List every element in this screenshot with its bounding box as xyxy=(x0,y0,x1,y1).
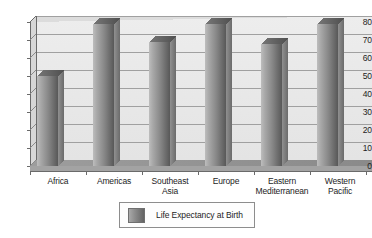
x-tick-western-pacific-line2: Pacific xyxy=(312,186,368,196)
x-tick-africa-line1: Africa xyxy=(30,176,86,186)
x-tick-africa: Africa xyxy=(30,176,86,186)
legend-swatch-life-expectancy xyxy=(128,208,145,223)
bar-americas xyxy=(93,18,120,166)
bar-europe xyxy=(205,18,232,166)
y-tick-30: 30 xyxy=(352,108,372,117)
y-tick-20: 20 xyxy=(352,126,372,135)
x-tick-eastern-mediterranean-line2: Mediterranean xyxy=(250,186,314,196)
x-tick-western-pacific: Western Pacific xyxy=(312,176,368,196)
bar-front-face xyxy=(149,42,170,166)
chart-legend: Life Expectancy at Birth xyxy=(119,202,255,228)
bar-side-face xyxy=(114,18,120,166)
y-tick-70: 70 xyxy=(352,36,372,45)
x-tick-americas: Americas xyxy=(86,176,142,186)
bar-front-face xyxy=(261,44,282,166)
y-tick-0: 0 xyxy=(352,162,372,171)
bar-front-face xyxy=(205,24,226,166)
x-tick-americas-line1: Americas xyxy=(86,176,142,186)
x-tick-southeast-asia-line1: Southeast xyxy=(142,176,198,186)
y-tick-40: 40 xyxy=(352,90,372,99)
y-tick-60: 60 xyxy=(352,54,372,63)
x-tick-southeast-asia: Southeast Asia xyxy=(142,176,198,196)
life-expectancy-bar-chart: 80 70 60 50 40 30 20 10 0 Africa America… xyxy=(0,0,372,238)
bar-side-face xyxy=(58,70,64,166)
plot-area xyxy=(0,0,372,180)
x-tick-europe-line1: Europe xyxy=(198,176,254,186)
legend-label-life-expectancy: Life Expectancy at Birth xyxy=(156,210,243,220)
bar-western-pacific xyxy=(317,18,344,166)
bar-southeast-asia xyxy=(149,36,176,166)
y-tick-80: 80 xyxy=(352,18,372,27)
x-tick-western-pacific-line1: Western xyxy=(312,176,368,186)
x-tick-southeast-asia-line2: Asia xyxy=(142,186,198,196)
bar-africa xyxy=(37,70,64,166)
bar-side-face xyxy=(226,18,232,166)
x-tick-eastern-mediterranean: Eastern Mediterranean xyxy=(250,176,314,196)
bar-eastern-mediterranean xyxy=(261,38,288,166)
bar-front-face xyxy=(93,24,114,166)
bar-front-face xyxy=(317,24,338,166)
y-tick-10: 10 xyxy=(352,144,372,153)
x-tick-europe: Europe xyxy=(198,176,254,186)
y-tick-50: 50 xyxy=(352,72,372,81)
x-axis-ticks xyxy=(30,171,366,175)
plot-floor-front xyxy=(30,166,372,171)
bar-side-face xyxy=(170,36,176,166)
bar-side-face xyxy=(282,38,288,166)
x-tick-eastern-mediterranean-line1: Eastern xyxy=(250,176,314,186)
bar-front-face xyxy=(37,76,58,166)
bar-side-face xyxy=(338,18,344,166)
